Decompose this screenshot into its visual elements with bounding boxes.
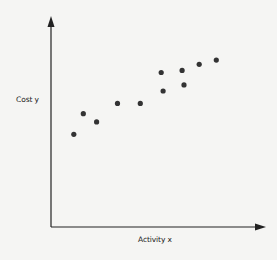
data-point — [115, 101, 120, 106]
data-point — [161, 88, 166, 93]
x-axis-arrow-icon — [255, 224, 266, 231]
data-point — [181, 82, 186, 87]
data-point — [94, 119, 99, 124]
data-points — [71, 58, 219, 137]
data-point — [81, 111, 86, 116]
x-axis-label: Activity x — [138, 235, 172, 244]
data-point — [214, 58, 219, 63]
data-point — [159, 70, 164, 75]
y-axis-arrow-icon — [48, 16, 55, 27]
data-point — [197, 62, 202, 67]
data-point — [180, 68, 185, 73]
data-point — [138, 101, 143, 106]
y-axis-label: Cost y — [16, 95, 39, 104]
data-point — [71, 132, 76, 137]
scatter-chart — [0, 0, 277, 260]
axes — [48, 16, 267, 231]
